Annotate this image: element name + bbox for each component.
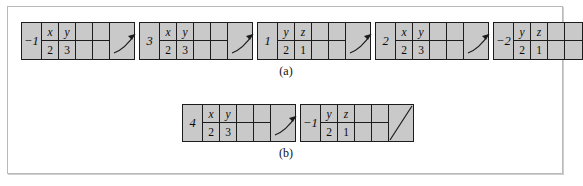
node-empty-cell — [254, 105, 271, 141]
node-key: −1 — [22, 23, 42, 59]
list-node: −1 x 2 y 3 — [21, 22, 135, 60]
node-pointer-cell — [271, 105, 295, 141]
pair-var: x — [160, 23, 176, 41]
list-node: −1 y 2 z 1 — [300, 104, 414, 142]
list-node: 4 x 2 y 3 — [182, 104, 296, 142]
pair-val: 3 — [59, 41, 75, 59]
node-pair-cell: x 2 — [42, 23, 59, 59]
node-pair-cell: y 3 — [59, 23, 76, 59]
pair-val: 1 — [531, 41, 547, 59]
pair-val: 1 — [338, 123, 354, 141]
node-empty-cell — [430, 23, 447, 59]
node-pair-cell: x 2 — [396, 23, 413, 59]
node-empty-cell — [372, 105, 389, 141]
node-pair-cell: z 1 — [338, 105, 355, 141]
pair-var: z — [531, 23, 547, 41]
node-pair-cell: x 2 — [203, 105, 220, 141]
pair-var: y — [413, 23, 429, 41]
pair-val: 2 — [42, 41, 58, 59]
pair-var: x — [396, 23, 412, 41]
node-empty-cell — [355, 105, 372, 141]
pair-val: 2 — [278, 41, 294, 59]
node-pair-cell: y 2 — [321, 105, 338, 141]
node-empty-cell — [329, 23, 346, 59]
caption-a: (a) — [266, 64, 306, 79]
list-node: 1 y 2 z 1 — [257, 22, 371, 60]
pair-val: 3 — [413, 41, 429, 59]
node-key: 1 — [258, 23, 278, 59]
node-empty-cell — [548, 23, 565, 59]
figure-frame: −1 x 2 y 3 3 x 2 y — [7, 6, 563, 174]
node-pair-cell: y 2 — [278, 23, 295, 59]
list-node: 2 x 2 y 3 — [375, 22, 489, 60]
pair-var: y — [177, 23, 193, 41]
node-pair-cell: z 1 — [531, 23, 548, 59]
node-empty-cell — [76, 23, 93, 59]
list-node: −2 y 2 z 1 — [493, 22, 583, 60]
node-pair-cell: y 3 — [177, 23, 194, 59]
pair-val: 3 — [177, 41, 193, 59]
node-empty-cell — [312, 23, 329, 59]
node-pointer-cell — [464, 23, 488, 59]
node-pointer-cell — [228, 23, 252, 59]
pair-val: 2 — [160, 41, 176, 59]
null-slash-icon — [389, 105, 413, 141]
pair-var: y — [514, 23, 530, 41]
node-key: −2 — [494, 23, 514, 59]
pair-val: 1 — [295, 41, 311, 59]
pair-val: 2 — [396, 41, 412, 59]
pair-val: 3 — [220, 123, 236, 141]
node-pair-cell: y 3 — [220, 105, 237, 141]
node-null-pointer-cell — [389, 105, 413, 141]
pair-var: y — [278, 23, 294, 41]
pair-var: x — [203, 105, 219, 123]
node-pointer-cell — [346, 23, 370, 59]
pair-val: 2 — [514, 41, 530, 59]
list-node: 3 x 2 y 3 — [139, 22, 253, 60]
pair-var: y — [59, 23, 75, 41]
node-empty-cell — [194, 23, 211, 59]
caption-b: (b) — [266, 146, 306, 161]
pair-val: 2 — [321, 123, 337, 141]
node-pair-cell: y 2 — [514, 23, 531, 59]
node-empty-cell — [565, 23, 582, 59]
node-empty-cell — [211, 23, 228, 59]
node-pair-cell: z 1 — [295, 23, 312, 59]
pair-var: y — [321, 105, 337, 123]
pair-val: 2 — [203, 123, 219, 141]
pair-var: y — [220, 105, 236, 123]
pair-var: z — [295, 23, 311, 41]
node-key: 2 — [376, 23, 396, 59]
pair-var: z — [338, 105, 354, 123]
node-empty-cell — [447, 23, 464, 59]
node-key: −1 — [301, 105, 321, 141]
node-pair-cell: x 2 — [160, 23, 177, 59]
node-key: 3 — [140, 23, 160, 59]
node-key: 4 — [183, 105, 203, 141]
pair-var: x — [42, 23, 58, 41]
node-empty-cell — [237, 105, 254, 141]
node-pointer-cell — [110, 23, 134, 59]
node-pair-cell: y 3 — [413, 23, 430, 59]
node-empty-cell — [93, 23, 110, 59]
